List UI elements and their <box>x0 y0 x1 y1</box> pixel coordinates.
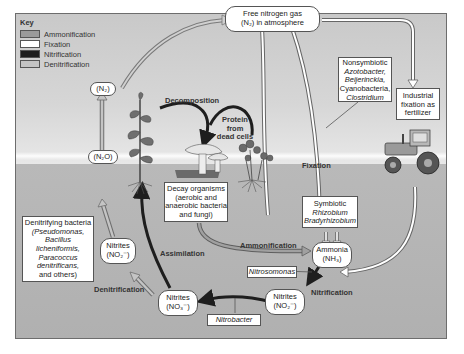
label-protein-from-dead-cells: Protein from dead cells <box>215 116 255 142</box>
legend-label: Fixation <box>44 40 70 49</box>
swatch-fixation <box>20 40 40 48</box>
legend: Key Ammonification Fixation Nitrificatio… <box>20 18 95 69</box>
tractor-icon <box>385 130 439 174</box>
label-denitrification: Denitrification <box>94 286 144 295</box>
label-fixation: Fixation <box>302 162 331 171</box>
legend-label: Ammonification <box>44 30 95 39</box>
legend-item-ammonification: Ammonification <box>20 29 95 39</box>
legend-label: Denitrification <box>44 60 89 69</box>
node-free-nitrogen-gas: Free nitrogen gas (N₂) in atmosphere <box>225 6 320 32</box>
mushroom-icon <box>175 144 228 178</box>
legend-item-nitrification: Nitrification <box>20 49 95 59</box>
label-assimilation: Assimilation <box>160 250 205 259</box>
box-denitrifying-bacteria: Denitrifying bacteria (Pseudomonas, Baci… <box>22 216 94 282</box>
legend-label: Nitrification <box>44 50 81 59</box>
node-text: (NO₂⁻) <box>266 302 304 311</box>
box-nonsymbiotic: Nonsymbiotic Azotobacter, Beijerinckia, … <box>338 57 392 102</box>
node-text: (NH₃) <box>313 255 351 264</box>
node-text: (N₂) in atmosphere <box>226 19 319 28</box>
label-nitrification: Nitrification <box>311 289 353 298</box>
swatch-ammonification <box>20 30 40 38</box>
node-ammonia: Ammonia (NH₃) <box>312 242 352 268</box>
node-nitrates: Nitrites (NO₃⁻) <box>158 290 198 316</box>
legend-title: Key <box>20 18 95 27</box>
box-industrial-fixation: Industrial fixation as fertilizer <box>396 88 440 120</box>
box-nitrobacter: Nitrobacter <box>207 314 261 326</box>
node-n2: (N₂) <box>90 82 116 96</box>
box-decay-organisms: Decay organisms (aerobic and anaerobic b… <box>164 182 228 222</box>
box-nitrosomonas: Nitrosomonas <box>247 266 297 278</box>
box-text: and fungi) <box>165 211 227 220</box>
node-n2o: (N₂O) <box>88 150 118 164</box>
box-text: and others) <box>23 271 93 280</box>
node-text: (N₂O) <box>89 153 117 162</box>
label-ammonification: Ammonification <box>240 242 297 251</box>
label-text: dead cells <box>215 133 255 142</box>
box-text: fertilizer <box>397 109 439 118</box>
legend-item-fixation: Fixation <box>20 39 95 49</box>
node-text: (NO₂⁻) <box>101 251 135 260</box>
node-text: (NO₃⁻) <box>159 303 197 312</box>
swatch-denitrification <box>20 60 40 68</box>
box-symbiotic: Symbiotic Rhizobium Bradyrhizobium <box>302 196 358 228</box>
plant-icon <box>128 92 153 194</box>
label-decomposition: Decomposition <box>165 97 219 106</box>
box-text: Bradyrhizobium <box>303 217 357 226</box>
swatch-nitrification <box>20 50 40 58</box>
node-text: (N₂) <box>91 85 115 94</box>
node-nitrites-right: Nitrites (NO₂⁻) <box>265 289 305 315</box>
legend-item-denitrification: Denitrification <box>20 59 95 69</box>
node-nitrites-left: Nitrites (NO₂⁻) <box>100 238 136 264</box>
box-text: Clostridium <box>339 94 391 103</box>
